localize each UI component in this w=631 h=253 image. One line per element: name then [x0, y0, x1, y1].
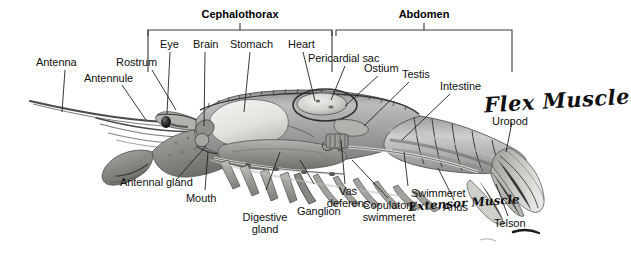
leader-rostrum	[152, 70, 176, 110]
antennal-gland-shape	[195, 134, 209, 147]
eye-shape	[161, 116, 171, 128]
label-antennule: Antennule	[84, 73, 133, 85]
label-rostrum: Rostrum	[116, 57, 157, 69]
abdomen-bracket	[336, 30, 512, 72]
leader-antenna	[62, 70, 65, 112]
label-antennal-gland: Antennal gland	[120, 177, 193, 189]
cephalothorax-bracket	[148, 30, 332, 36]
label-mouth: Mouth	[186, 193, 216, 205]
leader-antennule	[122, 85, 146, 120]
label-digestive-gland: Digestive gland	[243, 212, 288, 235]
label-telson: Telson	[494, 218, 526, 230]
label-testis: Testis	[402, 69, 430, 81]
label-antenna: Antenna	[36, 57, 77, 69]
label-ostium: Ostium	[364, 63, 399, 75]
label-uropod: Uropod	[492, 116, 528, 128]
label-stomach: Stomach	[230, 39, 273, 51]
label-ganglion: Ganglion	[297, 206, 341, 218]
bracket-label-cephalothorax: Cephalothorax	[201, 8, 278, 20]
label-heart: Heart	[288, 39, 315, 51]
copulatory-swimmerets	[294, 173, 316, 204]
bracket-label-abdomen: Abdomen	[399, 8, 450, 20]
leader-eye	[167, 52, 170, 114]
label-eye: Eye	[160, 39, 179, 51]
label-brain: Brain	[193, 39, 218, 51]
label-intestine: Intestine	[440, 81, 481, 93]
heart-shape	[297, 93, 347, 115]
